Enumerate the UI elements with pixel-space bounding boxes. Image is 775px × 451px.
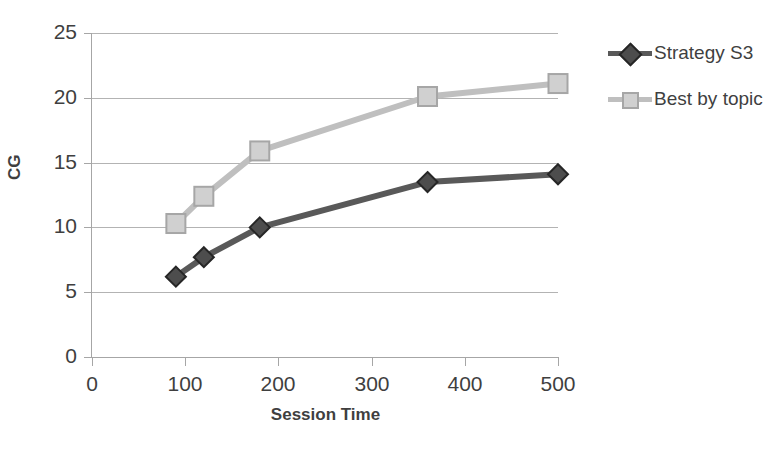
x-axis-title: Session Time: [92, 405, 559, 425]
x-tick-500: [558, 358, 559, 366]
x-tick-label-0: 0: [52, 372, 132, 396]
chart-container: 25 20 15 10 5 0 0 100 200 300 400 500 CG…: [0, 0, 775, 451]
y-tick-label-20: 20: [17, 85, 77, 109]
x-tick-label-300: 300: [332, 372, 412, 396]
chart-legend: Strategy S3 Best by topic: [608, 30, 773, 122]
x-tick-label-400: 400: [425, 372, 505, 396]
x-tick-label-500: 500: [518, 372, 598, 396]
legend-swatch-strategy-s3: [608, 42, 652, 64]
y-axis-title: CG: [5, 155, 25, 181]
gridline-5: [92, 292, 558, 293]
square-marker-icon: [622, 92, 639, 109]
x-tick-200: [278, 358, 279, 366]
x-tick-100: [185, 358, 186, 366]
gridline-20: [92, 98, 558, 99]
y-tick-10: [84, 227, 92, 228]
gridline-25: [92, 33, 558, 34]
plot-area: [92, 33, 558, 357]
y-tick-label-15: 15: [17, 150, 77, 174]
legend-label-best-by-topic: Best by topic: [654, 88, 763, 110]
y-tick-label-25: 25: [17, 20, 77, 44]
y-tick-label-0: 0: [17, 344, 77, 368]
legend-label-strategy-s3: Strategy S3: [654, 42, 753, 64]
x-tick-label-200: 200: [238, 372, 318, 396]
gridline-15: [92, 163, 558, 164]
legend-swatch-best-by-topic: [608, 88, 652, 110]
y-tick-5: [84, 292, 92, 293]
y-tick-label-10: 10: [17, 214, 77, 238]
x-tick-0: [92, 358, 93, 366]
x-tick-300: [372, 358, 373, 366]
y-tick-25: [84, 33, 92, 34]
y-axis-line: [91, 33, 92, 358]
y-tick-20: [84, 98, 92, 99]
gridline-10: [92, 227, 558, 228]
x-tick-label-100: 100: [145, 372, 225, 396]
legend-item-best-by-topic[interactable]: Best by topic: [608, 76, 773, 122]
x-tick-400: [465, 358, 466, 366]
x-axis-line: [92, 357, 559, 358]
legend-item-strategy-s3[interactable]: Strategy S3: [608, 30, 773, 76]
y-tick-15: [84, 163, 92, 164]
diamond-marker-icon: [618, 42, 642, 66]
y-tick-label-5: 5: [17, 279, 77, 303]
y-tick-0: [84, 357, 92, 358]
